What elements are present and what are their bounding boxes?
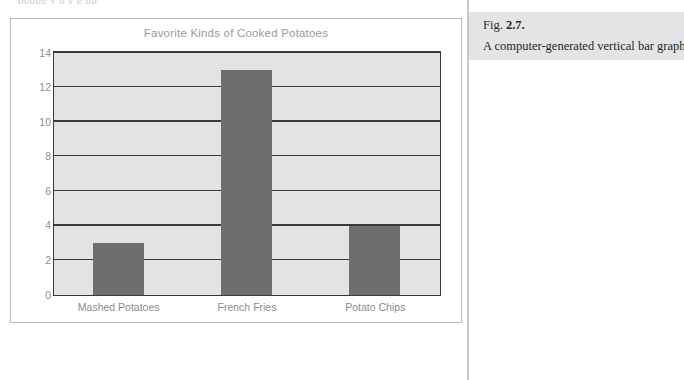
y-tick-label: 0 — [17, 289, 51, 301]
chart-title: Favorite Kinds of Cooked Potatoes — [11, 27, 461, 39]
figure-container: Favorite Kinds of Cooked Potatoes 024681… — [10, 18, 462, 323]
y-tick-label: 4 — [17, 219, 51, 231]
bar — [93, 243, 144, 295]
plot-area — [53, 51, 441, 296]
y-tick-label: 2 — [17, 254, 51, 266]
category-label: French Fries — [218, 301, 277, 313]
y-tick-label: 6 — [17, 185, 51, 197]
caption-fig-number-value: 2.7. — [506, 18, 525, 32]
y-tick-label: 10 — [17, 116, 51, 128]
category-label: Potato Chips — [345, 301, 405, 313]
y-tick-label: 8 — [17, 150, 51, 162]
category-label: Mashed Potatoes — [78, 301, 160, 313]
caption-figure-number: Fig. 2.7. — [483, 18, 684, 33]
caption-fig-prefix: Fig. — [483, 18, 503, 32]
caption-description: A computer-generated vertical bar graph — [483, 39, 684, 54]
bar — [349, 226, 400, 295]
bar — [221, 70, 272, 295]
cropped-text-bleed: ppppg y p y g pp — [18, 0, 438, 4]
y-tick-label: 14 — [17, 47, 51, 59]
y-axis-tick-labels: 02468101214 — [11, 51, 51, 296]
figure-caption-panel: Fig. 2.7. A computer-generated vertical … — [469, 12, 684, 60]
gridline-y-14 — [54, 51, 440, 53]
y-tick-label: 12 — [17, 81, 51, 93]
